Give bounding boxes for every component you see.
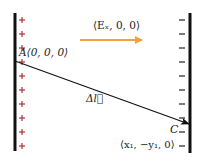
field-label: ⟨Eₓ, 0, 0⟩ (93, 19, 140, 31)
displacement-label: Δl⃗ (85, 92, 103, 104)
positive-charges (19, 17, 25, 149)
negative-charges (179, 20, 185, 146)
point-c-coords: ⟨x₁, −y₁, 0⟩ (120, 139, 175, 150)
point-a-label: A⟨0, 0, 0⟩ (18, 46, 68, 58)
point-c-name: C (170, 123, 179, 136)
capacitor-diagram: ⟨Eₓ, 0, 0⟩ A⟨0, 0, 0⟩ Δl⃗ C ⟨x₁, −y₁, 0⟩ (0, 0, 202, 157)
